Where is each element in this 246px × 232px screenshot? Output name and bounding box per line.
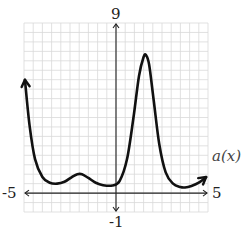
- x-min-label: -5: [2, 184, 17, 202]
- y-max-label: 9: [111, 5, 121, 23]
- function-label: a(x): [212, 147, 241, 165]
- function-graph: -5 5 9 -1 a(x): [0, 0, 246, 232]
- y-min-label: -1: [109, 213, 124, 231]
- x-max-label: 5: [212, 184, 222, 202]
